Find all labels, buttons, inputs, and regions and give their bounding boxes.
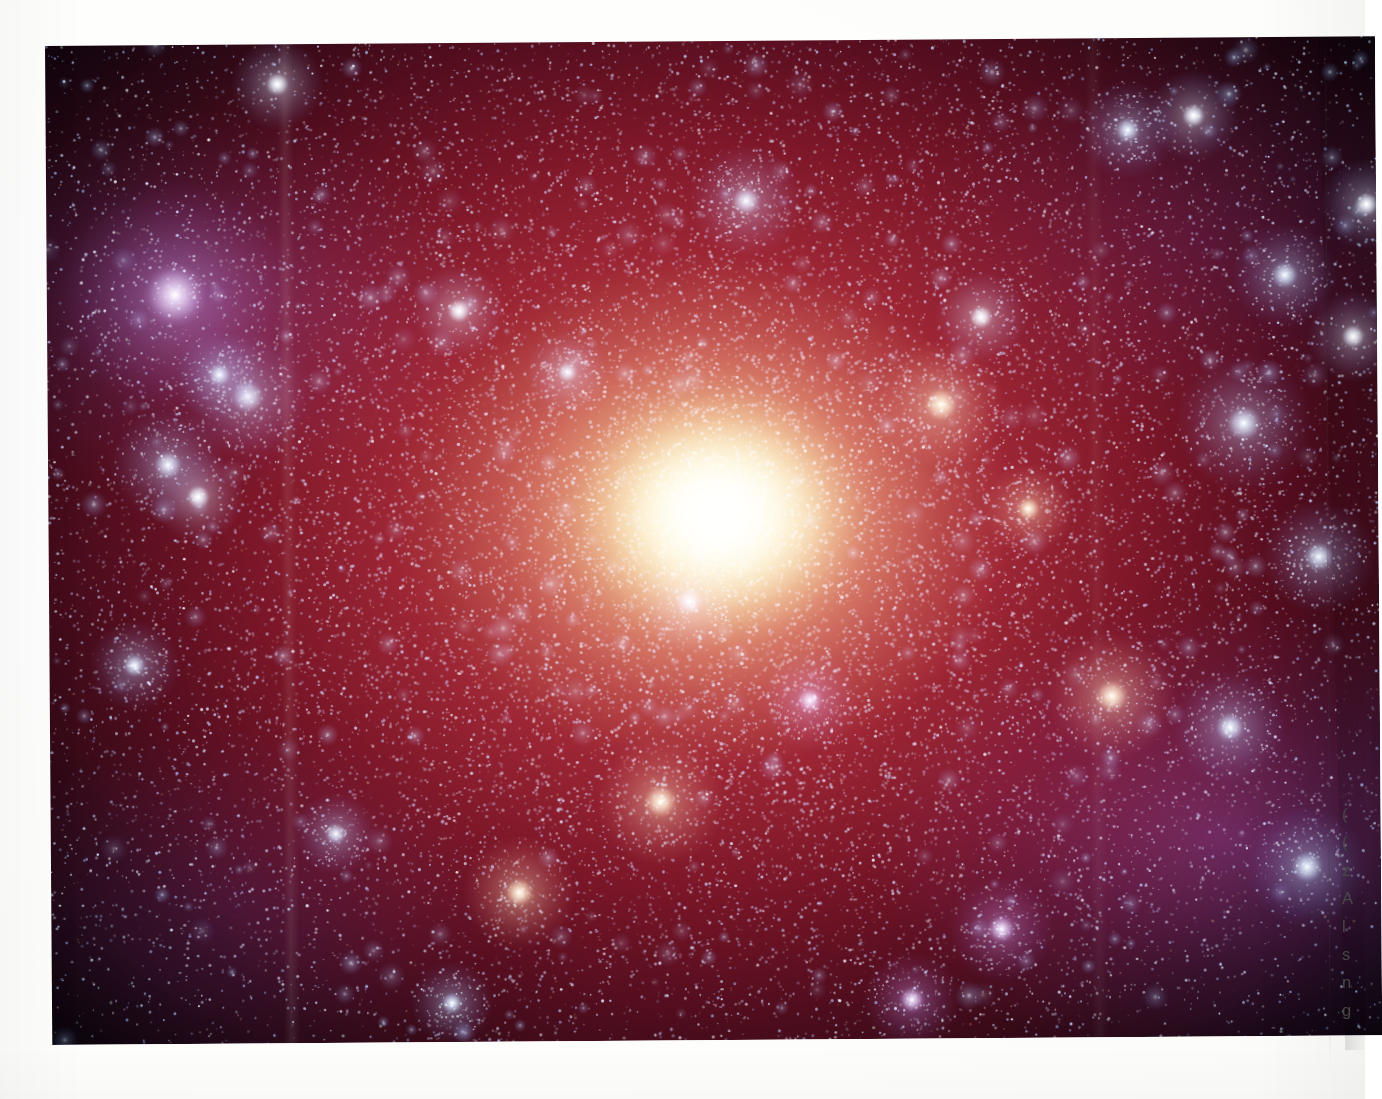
galaxy-photograph — [45, 36, 1382, 1045]
bright-stars-and-clusters — [45, 36, 1382, 1045]
text-line: ( — [1342, 834, 1348, 851]
text-line: z — [1342, 862, 1350, 879]
body-text-column: ( ( z A l s n g — [1336, 0, 1365, 1099]
text-line: ( — [1342, 806, 1348, 823]
text-line: A — [1342, 890, 1353, 907]
galaxy-photograph-frame — [45, 36, 1382, 1045]
text-line: n — [1342, 974, 1351, 991]
text-line: l — [1342, 918, 1346, 935]
paper-bottom-shadow — [0, 1045, 1365, 1099]
text-line: g — [1342, 1002, 1351, 1019]
text-line: s — [1342, 946, 1350, 963]
